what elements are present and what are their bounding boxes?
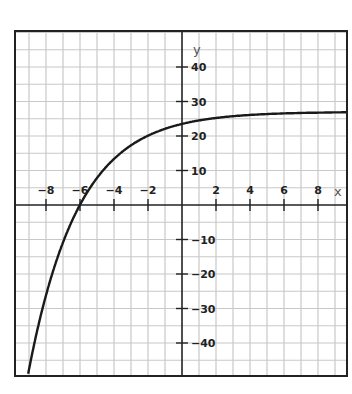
chart-canvas: −8−6−4−2246840302010−10−20−30−40 x y (0, 0, 352, 394)
y-tick-label: 10 (191, 165, 207, 178)
x-tick-label: 8 (314, 184, 322, 197)
function-curve (28, 112, 348, 374)
y-tick-label: 30 (191, 96, 207, 109)
y-axis-label: y (193, 42, 201, 57)
y-tick-label: 20 (191, 130, 207, 143)
y-tick-label: −10 (191, 234, 216, 247)
y-tick-label: 40 (191, 61, 207, 74)
y-tick-label: −40 (191, 337, 216, 350)
plot-frame (15, 31, 347, 376)
x-tick-label: −8 (38, 184, 55, 197)
x-tick-label: 4 (246, 184, 254, 197)
grid-lines (15, 31, 347, 376)
y-tick-label: −20 (191, 268, 216, 281)
axes (15, 31, 347, 376)
x-axis-label: x (334, 184, 342, 199)
x-tick-label: −4 (106, 184, 123, 197)
y-tick-label: −30 (191, 303, 216, 316)
x-tick-label: −2 (140, 184, 157, 197)
x-tick-label: 6 (280, 184, 288, 197)
x-tick-label: 2 (212, 184, 220, 197)
